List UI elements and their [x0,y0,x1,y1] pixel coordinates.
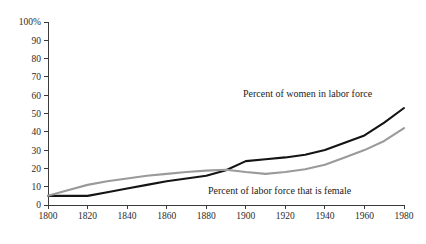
x-axis-tick-label: 1960 [355,211,374,221]
y-axis-tick-label: 20 [32,164,42,174]
y-axis-tick-label: 10 [32,182,42,192]
y-axis-tick-label: 40 [32,127,42,137]
annotation-labor-force-that-is-female: Percent of labor force that is female [208,185,352,196]
x-axis-tick-label: 1860 [157,211,176,221]
x-axis-tick-label: 1900 [236,211,255,221]
x-axis-tick-label: 1840 [118,211,137,221]
y-axis-tick-label: 50 [32,109,42,119]
chart-canvas: 0102030405060708090100% 1800182018401860… [0,0,426,244]
y-axis-tick-label: 0 [36,200,41,210]
x-axis-tick-label: 1800 [39,211,58,221]
line-chart-figure: 0102030405060708090100% 1800182018401860… [0,0,426,244]
annotation-women-in-labor-force: Percent of women in labor force [243,88,373,99]
x-axis-tick-label: 1980 [395,211,414,221]
y-axis-tick-label: 80 [32,54,42,64]
x-axis-tick-label: 1940 [315,211,334,221]
y-axis-tick-label: 30 [32,146,42,156]
y-axis-tick-label: 100% [19,17,41,27]
y-axis-tick-label: 70 [32,72,42,82]
x-axis-tick-label: 1880 [197,211,216,221]
y-axis-tick-label: 60 [32,91,42,101]
x-axis-tick-label: 1920 [276,211,295,221]
x-axis-tick-label: 1820 [78,211,97,221]
y-axis-tick-label: 90 [32,36,42,46]
chart-background [0,0,426,244]
